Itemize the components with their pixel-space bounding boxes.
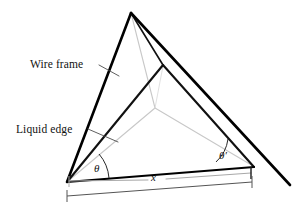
wire-frame-group (67, 13, 290, 185)
dark-liquid-edge-left-branch (67, 65, 163, 182)
dark-liquid-edge-apex-connector (131, 13, 163, 65)
figure-container: Wire frame Liquid edge θ θ′ x (0, 0, 298, 212)
theta-prime-angle-label: θ′ (219, 150, 227, 161)
angle-arc-group (99, 139, 228, 178)
gray-edge-steiner-to-right-vertex (155, 108, 253, 166)
wire-frame-left-edge (67, 13, 131, 182)
leader-line-group (88, 65, 119, 142)
diagram-canvas (0, 0, 298, 212)
wire-frame-right-edge (131, 13, 290, 185)
liquid-edge-label: Liquid edge (16, 124, 72, 136)
theta-arc (99, 154, 109, 178)
theta-angle-label: θ (94, 163, 99, 174)
wire-frame-label: Wire frame (30, 59, 83, 71)
dimension-base-line (67, 182, 252, 196)
x-dimension-label: x (151, 172, 156, 183)
liquid-edge-leader-line (88, 129, 118, 142)
dark-liquid-edge-right-branch (163, 65, 254, 167)
